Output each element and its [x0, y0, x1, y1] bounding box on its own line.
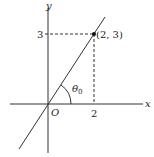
angle-label: θ0	[72, 83, 83, 96]
y-axis-label: y	[45, 0, 52, 11]
angle-label-subscript: 0	[78, 88, 82, 96]
point-label: (2, 3)	[96, 29, 123, 40]
x-tick-label: 2	[91, 108, 97, 119]
coordinate-diagram: y x O 3 2 (2, 3) θ0	[0, 0, 154, 157]
y-tick-label: 3	[37, 29, 43, 40]
origin-label: O	[51, 107, 59, 118]
angle-arc	[61, 85, 71, 104]
x-axis-label: x	[145, 98, 151, 109]
slanted-line	[19, 17, 105, 149]
diagram-canvas: y x O 3 2 (2, 3) θ0	[0, 0, 154, 157]
